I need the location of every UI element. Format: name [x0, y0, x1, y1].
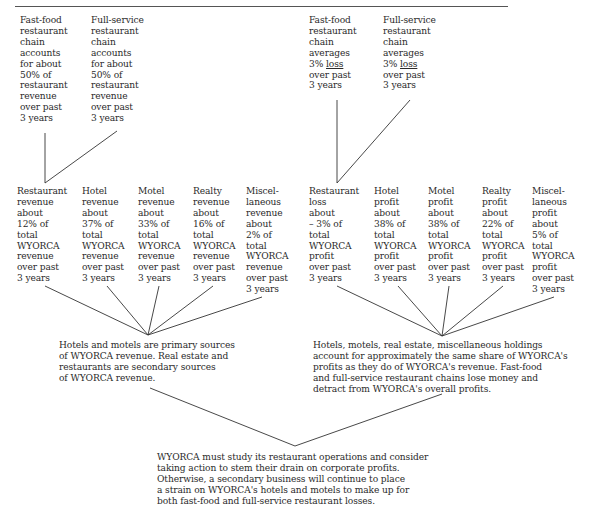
- restaurant-loss-node: Restaurant loss about – 3% of total WYOR…: [309, 186, 359, 284]
- profit-conclusion: Hotels, motels, real estate, miscellaneo…: [313, 340, 568, 395]
- misc-revenue-node: Miscel- laneous revenue about 2% of tota…: [246, 186, 289, 295]
- loss-underlined: loss: [400, 59, 417, 69]
- full-service-revenue-share-note: Full-service restaurant chain accounts f…: [91, 15, 144, 124]
- restaurant-revenue-node: Restaurant revenue about 12% of total WY…: [17, 186, 67, 284]
- hotel-revenue-node: Hotel revenue about 37% of total WYORCA …: [82, 186, 125, 284]
- loss-underlined: loss: [326, 59, 343, 69]
- misc-profit-node: Miscel- laneous profit about 5% of total…: [532, 186, 575, 295]
- realty-profit-node: Realty profit about 22% of total WYORCA …: [482, 186, 525, 284]
- motel-profit-node: Motel profit about 38% of total WYORCA p…: [428, 186, 471, 284]
- hotel-profit-node: Hotel profit about 38% of total WYORCA p…: [374, 186, 417, 284]
- fast-food-revenue-share-note: Fast-food restaurant chain accounts for …: [20, 15, 68, 124]
- realty-revenue-node: Realty revenue about 16% of total WYORCA…: [193, 186, 236, 284]
- motel-revenue-node: Motel revenue about 33% of total WYORCA …: [138, 186, 181, 284]
- full-service-loss-note: Full-service restaurant chain averages 3…: [383, 15, 436, 91]
- revenue-conclusion: Hotels and motels are primary sources of…: [59, 340, 235, 384]
- fast-food-loss-note: Fast-food restaurant chain averages 3% l…: [309, 15, 357, 91]
- final-conclusion: WYORCA must study its restaurant operati…: [157, 452, 428, 507]
